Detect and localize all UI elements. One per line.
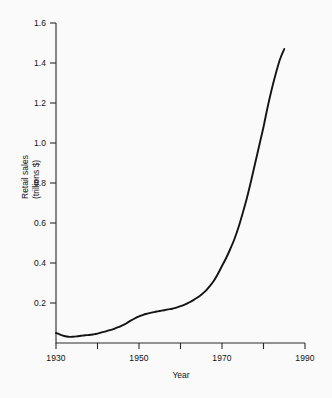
- y-tick-label: 1.4: [26, 58, 46, 68]
- x-tick-label: 1950: [129, 353, 148, 363]
- x-axis-ticks: [56, 343, 305, 349]
- x-tick-label: 1930: [46, 353, 65, 363]
- y-tick-label: 1.2: [26, 98, 46, 108]
- y-tick-label: 0.6: [26, 218, 46, 228]
- plot-area: [0, 0, 332, 398]
- x-axis-title: Year: [172, 370, 189, 380]
- chart-figure: 1.6 1.4 1.2 1.0 0.8 0.6 0.4 0.2 1930 195…: [0, 0, 332, 398]
- y-axis-ticks: [50, 23, 56, 303]
- axis-spine: [56, 23, 305, 343]
- y-tick-label: 0.2: [26, 298, 46, 308]
- y-axis-title: Retail sales (trillions $): [20, 177, 30, 199]
- data-series-line: [56, 49, 284, 337]
- y-axis-title-line2: (trillions $): [31, 177, 42, 199]
- y-tick-label: 1.0: [26, 138, 46, 148]
- y-axis-title-line1: Retail sales: [20, 177, 31, 199]
- y-tick-label: 1.6: [26, 18, 46, 28]
- x-tick-label: 1970: [212, 353, 231, 363]
- x-tick-label: 1990: [295, 353, 314, 363]
- y-tick-label: 0.4: [26, 258, 46, 268]
